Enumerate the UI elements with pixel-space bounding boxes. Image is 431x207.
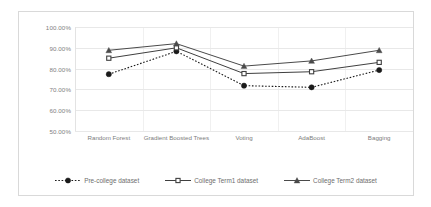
- x-axis: Random ForestGradient Boosted TreesVotin…: [75, 134, 413, 164]
- data-point: [174, 46, 178, 50]
- legend-label: College Term2 dataset: [313, 177, 377, 184]
- data-point: [310, 70, 314, 74]
- plot-area: [75, 27, 413, 131]
- series-layer: [75, 27, 413, 131]
- legend-label: College Term1 dataset: [194, 177, 258, 184]
- data-point: [107, 56, 111, 60]
- data-point: [377, 67, 382, 72]
- series-2: [107, 46, 382, 76]
- legend-item-3[interactable]: College Term2 dataset: [284, 176, 377, 185]
- y-axis-tick-label: 50.00%: [49, 128, 71, 135]
- series-3: [106, 41, 382, 69]
- data-point: [377, 60, 381, 64]
- legend-marker-icon: [284, 176, 310, 185]
- chart-container: 100.00%90.00%80.00%70.00%60.00%50.00% Ra…: [18, 11, 414, 196]
- x-axis-tick-label: Gradient Boosted Trees: [141, 134, 211, 143]
- data-point: [242, 71, 246, 75]
- chart-legend: Pre-college datasetCollege Term1 dataset…: [19, 170, 413, 190]
- legend-item-1[interactable]: Pre-college dataset: [55, 176, 139, 185]
- x-axis-tick-label: Voting: [209, 134, 279, 143]
- series-line: [109, 48, 379, 74]
- y-axis-tick-label: 60.00%: [49, 107, 71, 114]
- y-axis-tick-label: 90.00%: [49, 44, 71, 51]
- y-axis-tick-label: 80.00%: [49, 65, 71, 72]
- data-point: [106, 72, 111, 77]
- legend-label: Pre-college dataset: [84, 177, 139, 184]
- x-axis-tick-label: Random Forest: [74, 134, 144, 143]
- y-axis-tick-label: 70.00%: [49, 86, 71, 93]
- data-point: [241, 83, 246, 88]
- x-axis-tick-label: Bagging: [344, 134, 414, 143]
- y-axis-tick-label: 100.00%: [46, 24, 71, 31]
- series-line: [109, 44, 379, 66]
- y-axis: 100.00%90.00%80.00%70.00%60.00%50.00%: [37, 27, 71, 131]
- gridline-horizontal: [75, 131, 413, 132]
- legend-item-2[interactable]: College Term1 dataset: [165, 176, 258, 185]
- series-1: [106, 49, 382, 90]
- legend-marker-icon: [55, 176, 81, 185]
- legend-marker-icon: [165, 176, 191, 185]
- x-axis-tick-label: AdaBoost: [277, 134, 347, 143]
- data-point: [309, 85, 314, 90]
- data-point: [376, 47, 382, 52]
